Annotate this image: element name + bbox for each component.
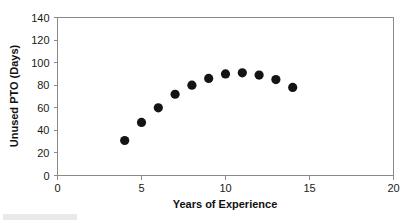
data-points-group bbox=[120, 68, 297, 145]
y-tick-label: 80 bbox=[37, 79, 49, 91]
y-tick-label: 40 bbox=[37, 124, 49, 136]
data-point bbox=[238, 68, 247, 77]
data-point bbox=[187, 81, 196, 90]
axes-group bbox=[58, 18, 394, 176]
data-point bbox=[204, 74, 213, 83]
y-tick-label: 100 bbox=[31, 57, 49, 69]
scatter-chart-figure: 020406080100120140 05101520 Years of Exp… bbox=[0, 0, 415, 223]
data-point bbox=[271, 75, 280, 84]
y-axis-title: Unused PTO (Days) bbox=[8, 44, 20, 147]
data-point bbox=[137, 118, 146, 127]
data-point bbox=[154, 103, 163, 112]
y-tick-label: 140 bbox=[31, 12, 49, 24]
data-point bbox=[255, 70, 264, 79]
data-point bbox=[120, 136, 129, 145]
x-axis-title: Years of Experience bbox=[173, 198, 278, 210]
data-point bbox=[221, 69, 230, 78]
x-tick-label: 20 bbox=[387, 182, 399, 194]
y-tick-label: 0 bbox=[43, 170, 49, 182]
y-tick-label: 60 bbox=[37, 102, 49, 114]
x-tick-label: 15 bbox=[303, 182, 315, 194]
x-tick-group: 05101520 bbox=[54, 176, 399, 194]
x-tick-label: 0 bbox=[54, 182, 60, 194]
y-tick-label: 120 bbox=[31, 34, 49, 46]
data-point bbox=[288, 83, 297, 92]
x-tick-label: 10 bbox=[219, 182, 231, 194]
y-tick-group: 020406080100120140 bbox=[31, 12, 57, 182]
data-point bbox=[171, 90, 180, 99]
plot-area: 020406080100120140 05101520 Years of Exp… bbox=[0, 0, 415, 223]
y-tick-label: 20 bbox=[37, 147, 49, 159]
bottom-gray-strip bbox=[3, 214, 77, 220]
x-tick-label: 5 bbox=[138, 182, 144, 194]
